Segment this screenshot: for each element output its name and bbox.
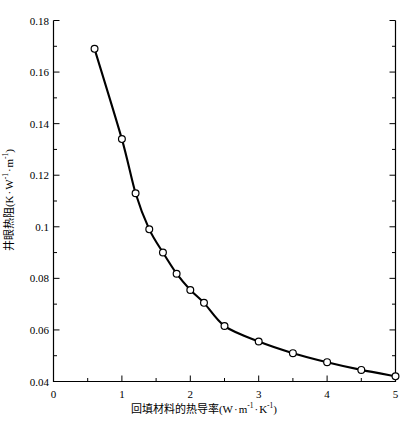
x-tick-label: 4	[324, 389, 330, 400]
data-series-line	[95, 49, 396, 376]
y-tick-label: 0.18	[14, 15, 49, 26]
y-tick-label: 0.06	[14, 324, 49, 335]
x-tick-label: 1	[119, 389, 125, 400]
y-axis-title-text: 井眼热阻(K	[3, 195, 15, 251]
y-tick-label: 0.08	[14, 273, 49, 284]
chart-canvas	[0, 0, 408, 425]
data-point-markers	[91, 45, 399, 379]
y-axis-unit-end-exp: -1	[1, 153, 10, 159]
y-tick-label: 0.14	[14, 118, 49, 129]
y-axis-title: 井眼热阻(K·W-1·m-1)	[3, 149, 16, 251]
y-axis-sep-2: ·	[3, 167, 15, 173]
x-tick-label: 2	[188, 389, 194, 400]
borehole-thermal-resistance-chart: 0.040.060.080.10.120.140.160.18 012345 回…	[0, 0, 408, 425]
y-tick-label: 0.12	[14, 170, 49, 181]
y-axis-unit-mid: W	[3, 179, 15, 189]
y-tick-label: 0.04	[14, 376, 49, 387]
x-axis-close-paren: )	[273, 403, 277, 415]
x-axis-unit-mid: m	[239, 403, 248, 415]
y-axis-unit-end: m	[3, 159, 15, 168]
y-tick-label: 0.1	[14, 221, 49, 232]
x-tick-label: 0	[51, 389, 57, 400]
y-axis-close-paren: )	[3, 149, 15, 153]
y-axis-sep-1: ·	[3, 190, 15, 196]
x-axis-title: 回填材料的热导率(W·m-1·K-1)	[0, 403, 408, 416]
y-tick-label: 0.16	[14, 67, 49, 78]
y-axis-unit-mid-exp: -1	[1, 173, 10, 179]
x-axis-unit-end: K	[259, 403, 267, 415]
x-tick-label: 5	[393, 389, 399, 400]
x-tick-label: 3	[256, 389, 262, 400]
x-axis-title-text: 回填材料的热导率(W	[131, 403, 233, 415]
